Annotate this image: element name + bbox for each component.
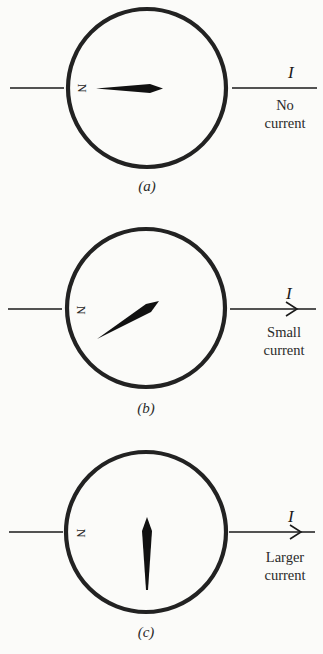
- panel-c: [9, 452, 315, 612]
- current-description-b: Small current: [249, 323, 319, 359]
- current-description-c: Larger current: [250, 548, 320, 584]
- current-description-a: No current: [250, 96, 320, 132]
- panel-b: [8, 229, 316, 387]
- current-desc-line1-b: Small: [249, 323, 319, 341]
- current-desc-line1-a: No: [250, 96, 320, 114]
- compass-needle-c: [142, 517, 152, 590]
- current-symbol-b: I: [286, 285, 292, 303]
- current-desc-line1-c: Larger: [250, 548, 320, 566]
- panel-caption-c: (c): [126, 624, 166, 640]
- current-desc-line2-c: current: [250, 566, 320, 584]
- current-symbol-c: I: [288, 508, 294, 526]
- panel-caption-a: (a): [127, 178, 167, 194]
- panel-a: [10, 9, 317, 167]
- current-desc-line2-a: current: [250, 114, 320, 132]
- north-label-b: N: [75, 304, 87, 316]
- north-label-c: N: [75, 527, 87, 539]
- panel-caption-b: (b): [126, 400, 166, 416]
- current-symbol-a: I: [288, 64, 294, 82]
- compass-needle-a: [96, 84, 163, 93]
- current-desc-line2-b: current: [249, 341, 319, 359]
- compass-needle-b: [97, 301, 159, 339]
- north-label-a: N: [76, 82, 88, 94]
